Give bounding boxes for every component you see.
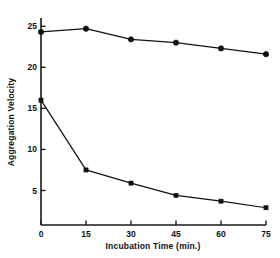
x-tick-label: 60 (216, 229, 226, 239)
data-point-marker (128, 37, 133, 42)
x-tick-label: 15 (81, 229, 91, 239)
data-series-layer (38, 26, 268, 210)
line-chart-svg: 510152025 01530456075 Incubation Time (m… (0, 0, 280, 258)
x-axis-title: Incubation Time (min.) (106, 241, 201, 251)
data-point-marker (263, 51, 268, 56)
x-axis-tick-labels: 01530456075 (39, 229, 271, 239)
x-tick-label: 0 (39, 229, 44, 239)
x-tick-label: 45 (171, 229, 181, 239)
series-upper-series (38, 26, 268, 57)
y-tick-label: 5 (32, 186, 37, 196)
y-tick-label: 20 (28, 62, 38, 72)
series-lower-series (39, 98, 268, 210)
data-point-marker (219, 199, 223, 203)
y-tick-label: 15 (28, 103, 38, 113)
data-point-marker (84, 168, 88, 172)
x-tick-label: 30 (126, 229, 136, 239)
data-point-marker (174, 193, 178, 197)
y-tick-label: 10 (28, 144, 38, 154)
data-point-marker (39, 98, 43, 102)
series-line-upper-series (41, 29, 266, 54)
y-tick-label: 25 (28, 21, 38, 31)
data-point-marker (83, 26, 88, 31)
data-point-marker (173, 40, 178, 45)
data-point-marker (264, 206, 268, 210)
x-tick-label: 75 (261, 229, 271, 239)
y-axis-tick-labels: 510152025 (28, 21, 38, 195)
series-line-lower-series (41, 100, 266, 208)
data-point-marker (38, 29, 43, 34)
data-point-marker (218, 46, 223, 51)
chart-figure: 510152025 01530456075 Incubation Time (m… (0, 0, 280, 258)
y-axis-title: Aggregation Velocity (6, 78, 16, 167)
data-point-marker (129, 181, 133, 185)
